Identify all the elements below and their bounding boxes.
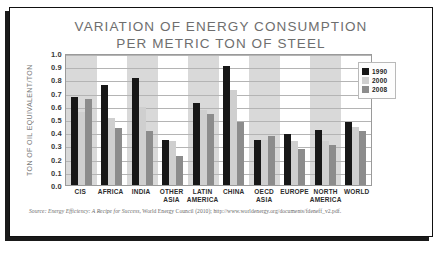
bar-group [219,55,250,185]
x-axis-tick-line: EUROPE [279,188,309,196]
y-axis-tick: 0.9 [51,63,62,72]
bar-2000 [261,140,268,185]
bar-2008 [298,149,305,185]
bar-2000 [291,141,298,185]
bar-2008 [329,145,336,185]
x-axis-tick: CIS [65,188,95,204]
bar-group [97,55,128,185]
x-axis-tick-line: AMERICA [187,196,219,204]
bar-2008 [359,131,366,185]
bar-2008 [237,122,244,185]
y-axis-tick-labels: 1.00.90.80.70.60.50.40.30.20.10.0 [42,54,64,186]
x-axis-tick-line: CIS [65,188,95,196]
x-axis-tick-line: ASIA [249,196,279,204]
chart-title: VARIATION OF ENERGY CONSUMPTION PER METR… [10,18,432,52]
bar-groups [66,55,371,185]
bar-1990 [132,78,139,185]
bar-2000 [230,90,237,185]
bar-2000 [169,141,176,185]
x-axis-tick: WORLD [342,188,372,204]
plot-canvas [65,54,372,186]
x-axis-tick: NORTHAMERICA [310,188,342,204]
bar-2008 [146,131,153,185]
x-axis-tick-labels: CISAFRICAINDIAOTHERASIALATINAMERICACHINA… [65,188,372,204]
bar-2008 [268,136,275,185]
source-title: Energy Efficiency: A Recipe for Success, [48,208,141,214]
source-reference: World Energy Council (2010); http://www.… [142,208,341,214]
y-axis-tick: 0.4 [51,129,62,138]
x-axis-tick: OECDASIA [249,188,279,204]
bar-group [188,55,219,185]
x-axis-tick-line: AFRICA [95,188,125,196]
chart-title-line-2: PER METRIC TON OF STEEL [10,35,432,52]
bar-2008 [207,114,214,185]
bar-2008 [85,99,92,185]
bar-1990 [223,66,230,185]
bar-2000 [322,141,329,185]
bar-group [127,55,158,185]
source-note: Source: Energy Efficiency: A Recipe for … [29,208,419,214]
legend-item-1990: 1990 [362,68,392,75]
y-axis-tick: 0.6 [51,102,62,111]
slide-frame: VARIATION OF ENERGY CONSUMPTION PER METR… [9,7,433,237]
legend-item-2008: 2008 [362,86,392,93]
bar-1990 [162,140,169,185]
legend-label: 1990 [372,68,387,75]
legend-swatch-icon [362,86,369,93]
x-axis-tick-line: INDIA [126,188,156,196]
x-axis-tick-line: AMERICA [310,196,342,204]
bar-1990 [284,134,291,185]
bar-group [66,55,97,185]
y-axis-tick: 0.8 [51,76,62,85]
x-axis-tick: INDIA [126,188,156,204]
y-axis-title: TON OF OIL EQUIVALENT/TON [26,54,40,186]
chart-title-line-1: VARIATION OF ENERGY CONSUMPTION [75,19,368,34]
chart-plot-area: TON OF OIL EQUIVALENT/TON 1.00.90.80.70.… [28,54,414,204]
y-axis-tick: 0.2 [51,155,62,164]
x-axis-tick: EUROPE [279,188,309,204]
x-axis-tick-line: OECD [249,188,279,196]
bar-2000 [108,118,115,185]
bar-1990 [345,122,352,185]
y-axis-tick: 1.0 [51,50,62,59]
bar-1990 [193,103,200,185]
legend-swatch-icon [362,68,369,75]
bar-2000 [139,107,146,185]
bar-1990 [315,130,322,185]
bar-1990 [254,140,261,185]
y-axis-tick: 0.7 [51,89,62,98]
legend-item-2000: 2000 [362,77,392,84]
bar-2008 [176,156,183,185]
legend-label: 2000 [372,77,387,84]
x-axis-tick: OTHERASIA [156,188,186,204]
x-axis-tick-line: OTHER [156,188,186,196]
chart-legend: 199020002008 [358,62,396,99]
legend-label: 2008 [372,86,387,93]
legend-swatch-icon [362,77,369,84]
x-axis-tick-line: WORLD [342,188,372,196]
y-axis-tick: 0.3 [51,142,62,151]
x-axis-tick: AFRICA [95,188,125,204]
bar-2008 [115,128,122,185]
y-axis-tick: 0.0 [51,182,62,191]
x-axis-tick-line: LATIN [187,188,219,196]
x-axis-tick-line: CHINA [218,188,248,196]
y-axis-tick: 0.1 [51,168,62,177]
x-axis-tick-line: ASIA [156,196,186,204]
bar-2000 [352,127,359,185]
source-label: Source: [29,208,47,214]
bar-1990 [71,97,78,185]
y-axis-tick: 0.5 [51,116,62,125]
bar-group [158,55,189,185]
bar-group [280,55,311,185]
bar-2000 [200,110,207,185]
bar-2000 [78,112,85,185]
bar-1990 [101,85,108,185]
bar-group [249,55,280,185]
x-axis-tick: CHINA [218,188,248,204]
x-axis-tick-line: NORTH [310,188,342,196]
x-axis-tick: LATINAMERICA [187,188,219,204]
bar-group [310,55,341,185]
